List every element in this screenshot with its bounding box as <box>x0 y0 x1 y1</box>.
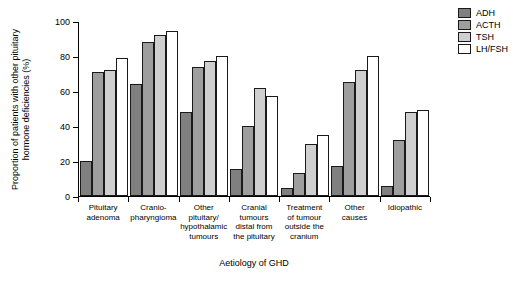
y-axis-tick-label: 0 <box>65 192 70 202</box>
x-axis-tick <box>179 197 180 202</box>
bar <box>80 161 92 196</box>
bar <box>305 144 317 197</box>
bar-group <box>179 22 229 196</box>
bar <box>254 88 266 197</box>
bar <box>367 56 379 196</box>
legend-swatch <box>458 20 471 30</box>
x-axis-category-label: Otherpituitary/hypothalamictumours <box>179 203 229 241</box>
bar <box>104 70 116 196</box>
bar <box>242 126 254 196</box>
bar-group <box>380 22 430 196</box>
x-axis-tick <box>380 197 381 202</box>
y-axis-tick-label: 20 <box>60 157 70 167</box>
legend-label: TSH <box>476 32 494 42</box>
bar <box>230 169 242 196</box>
x-axis-tick <box>329 197 330 202</box>
bar-group <box>280 22 330 196</box>
bar <box>92 72 104 196</box>
x-axis-category-label: Pituitaryadenoma <box>78 203 128 241</box>
bar <box>142 42 154 196</box>
y-axis-tick-label: 60 <box>60 87 70 97</box>
plot-area: 020406080100 <box>78 22 430 197</box>
x-axis-tick <box>229 197 230 202</box>
bar <box>216 56 228 196</box>
bar <box>343 82 355 196</box>
bar-group <box>330 22 380 196</box>
bar <box>317 135 329 196</box>
y-axis-tick-label: 40 <box>60 122 70 132</box>
legend-label: ACTH <box>476 20 501 30</box>
bar <box>154 35 166 196</box>
bar <box>331 166 343 196</box>
y-axis-tick-label: 100 <box>55 17 70 27</box>
bar-group <box>129 22 179 196</box>
y-axis-tick <box>73 127 79 128</box>
bar <box>266 96 278 196</box>
x-axis-title: Aetiology of GHD <box>78 258 430 268</box>
bar <box>405 112 417 196</box>
y-axis-tick <box>73 92 79 93</box>
x-axis-tick <box>128 197 129 202</box>
legend-item: ADH <box>458 8 508 18</box>
y-axis-tick <box>73 22 79 23</box>
bar <box>381 186 393 196</box>
legend: ADHACTHTSHLH/FSH <box>458 8 508 54</box>
bar-chart: Proportion of patients with other pituit… <box>0 0 516 284</box>
bar-groups <box>79 22 430 196</box>
bar <box>293 173 305 196</box>
bar <box>180 112 192 196</box>
x-axis-category-label: Othercauses <box>329 203 379 241</box>
bar <box>116 58 128 196</box>
legend-swatch <box>458 32 471 42</box>
legend-item: TSH <box>458 32 508 42</box>
bar <box>417 110 429 196</box>
x-axis-category-label: Cranialtumoursdistal fromthe pituitary <box>229 203 279 241</box>
legend-swatch <box>458 44 471 54</box>
x-axis-tick <box>78 197 79 202</box>
y-axis-title: Proportion of patients with other pituit… <box>10 22 24 197</box>
bar <box>204 61 216 196</box>
x-axis-labels: PituitaryadenomaCranio-pharyngiomaOtherp… <box>78 203 430 241</box>
x-axis-tick <box>279 197 280 202</box>
bar <box>281 188 293 196</box>
legend-item: LH/FSH <box>458 44 508 54</box>
x-axis-category-label: Idiopathic <box>380 203 430 241</box>
bar-group <box>229 22 279 196</box>
y-axis-tick <box>73 57 79 58</box>
legend-item: ACTH <box>458 20 508 30</box>
x-axis-tick <box>430 197 431 202</box>
x-axis-category-label: Cranio-pharyngioma <box>128 203 178 241</box>
bar <box>192 67 204 197</box>
bar <box>130 84 142 196</box>
y-axis-tick-label: 80 <box>60 52 70 62</box>
bar-group <box>79 22 129 196</box>
x-axis-ticks <box>78 197 430 202</box>
y-axis-tick <box>73 162 79 163</box>
legend-label: LH/FSH <box>476 44 508 54</box>
legend-label: ADH <box>476 8 495 18</box>
x-axis-category-label: Treatmentof tumouroutside thecranium <box>279 203 329 241</box>
bar <box>166 31 178 196</box>
legend-swatch <box>458 8 471 18</box>
bar <box>355 70 367 196</box>
bar <box>393 140 405 196</box>
